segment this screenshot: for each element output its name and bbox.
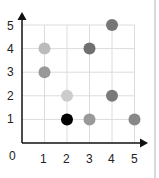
data-point bbox=[39, 43, 51, 55]
y-tick-label: 5 bbox=[7, 20, 14, 32]
y-tick-label: 2 bbox=[7, 90, 14, 102]
y-tick-label: 1 bbox=[7, 113, 14, 125]
data-point bbox=[84, 43, 96, 55]
axes bbox=[18, 12, 149, 148]
y-axis-arrow-icon bbox=[18, 12, 27, 20]
x-tick-label: 1 bbox=[40, 153, 47, 165]
y-tick-label: 3 bbox=[7, 66, 14, 78]
x-axis-arrow-icon bbox=[140, 139, 148, 148]
grid-lines bbox=[22, 25, 135, 143]
x-tick-label: 5 bbox=[131, 153, 138, 165]
origin-label: 0 bbox=[9, 150, 16, 162]
data-point bbox=[39, 66, 51, 78]
data-point bbox=[84, 113, 96, 125]
data-point bbox=[106, 90, 118, 102]
data-point bbox=[61, 90, 73, 102]
data-point bbox=[106, 19, 118, 31]
x-tick-label: 3 bbox=[86, 153, 93, 165]
x-tick-label: 4 bbox=[108, 153, 115, 165]
x-tick-label: 2 bbox=[63, 153, 70, 165]
y-tick-label: 4 bbox=[7, 43, 14, 55]
panel-border bbox=[154, 0, 156, 178]
data-point bbox=[129, 113, 141, 125]
data-point bbox=[61, 113, 73, 125]
